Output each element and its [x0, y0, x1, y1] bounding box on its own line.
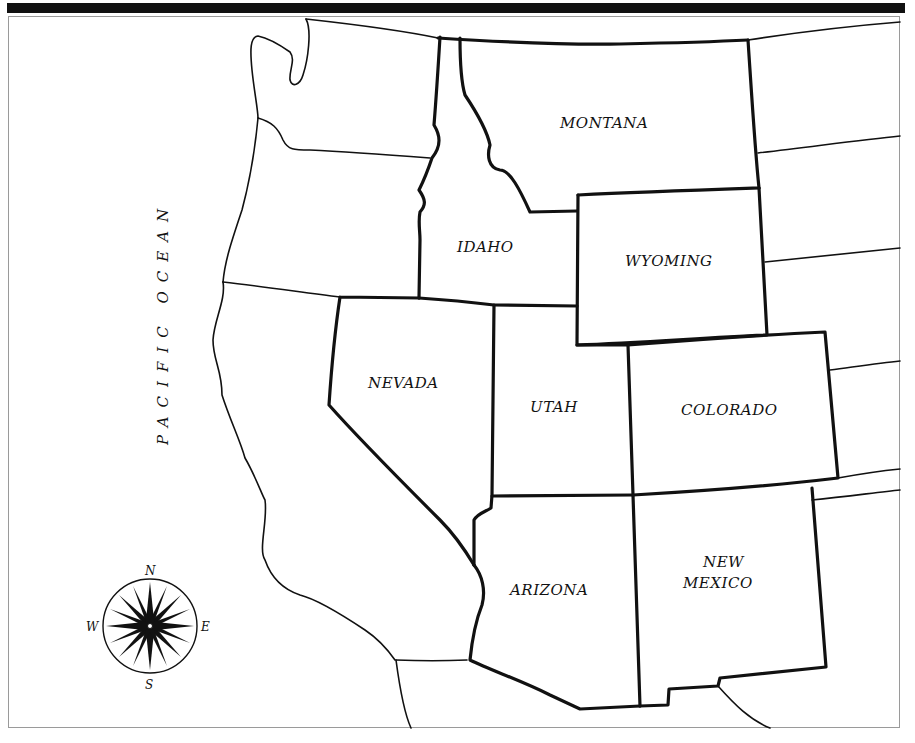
arizona-newmexico-border	[633, 495, 640, 706]
label-wyoming: WYOMING	[625, 252, 713, 270]
montana-wyoming-border	[578, 188, 759, 195]
compass-north: N	[144, 564, 156, 578]
ks-ok-line	[838, 469, 900, 478]
montana-east-border	[748, 40, 759, 188]
label-pacific-ocean: PACIFIC OCEAN	[154, 200, 172, 446]
state-labels: MONTANA IDAHO WYOMING NEVADA UTAH COLORA…	[367, 114, 777, 599]
utah-colorado-border	[577, 345, 633, 495]
label-montana: MONTANA	[559, 114, 648, 132]
map-frame: MONTANA IDAHO WYOMING NEVADA UTAH COLORA…	[0, 0, 915, 743]
newmexico-border	[640, 488, 826, 706]
label-idaho: IDAHO	[456, 238, 514, 256]
nevada-utah-border	[474, 305, 494, 565]
label-arizona: ARIZONA	[508, 581, 588, 599]
idaho-west-border	[419, 37, 440, 298]
compass-south: S	[145, 678, 153, 692]
label-utah: UTAH	[530, 398, 578, 416]
compass-west: W	[86, 620, 100, 634]
label-newmexico-line1: NEW	[702, 553, 745, 571]
thin-boundaries	[213, 19, 900, 728]
north-canada-line	[306, 19, 438, 38]
map-canvas: MONTANA IDAHO WYOMING NEVADA UTAH COLORA…	[0, 0, 915, 743]
nd-sd-line	[758, 136, 900, 153]
oregon-coast	[223, 118, 258, 282]
washington-outline	[251, 19, 309, 118]
or-ca-border	[223, 282, 340, 297]
california-coast	[213, 282, 395, 660]
compass-rose-icon: N S E W	[86, 564, 210, 692]
mexico-line	[718, 686, 770, 728]
idaho-south-border	[419, 298, 577, 306]
nevada-border	[329, 297, 474, 565]
canada-border	[438, 38, 748, 44]
label-newmexico-line2: MEXICO	[682, 574, 753, 592]
label-colorado: COLORADO	[681, 401, 777, 419]
ca-mexico-border	[396, 660, 467, 661]
four-corners-line	[492, 495, 633, 496]
label-nevada: NEVADA	[367, 374, 439, 392]
ne-ks-line	[830, 361, 900, 370]
nd-top-line	[748, 22, 900, 40]
compass-east: E	[200, 620, 210, 634]
sd-ne-line	[765, 248, 900, 262]
thick-boundaries	[329, 37, 838, 709]
ok-tx-line	[812, 490, 900, 500]
wa-or-border	[258, 118, 430, 158]
baja-coast	[396, 660, 411, 728]
